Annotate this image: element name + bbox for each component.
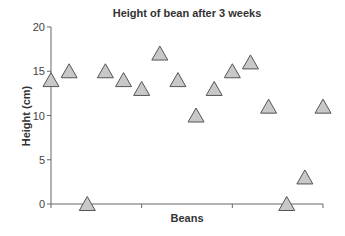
triangle-marker	[43, 73, 59, 87]
scatter-chart: Height of bean after 3 weeks 05101520 Be…	[0, 0, 345, 236]
triangle-marker	[315, 99, 331, 113]
triangle-marker	[170, 73, 186, 87]
triangle-marker	[188, 108, 204, 122]
y-axis: 05101520	[33, 21, 51, 210]
y-tick-label: 15	[33, 65, 45, 77]
chart-title: Height of bean after 3 weeks	[113, 7, 262, 19]
triangle-marker	[206, 81, 222, 95]
triangle-marker	[261, 99, 277, 113]
x-axis-label: Beans	[170, 212, 203, 224]
y-tick-label: 10	[33, 110, 45, 122]
triangle-marker	[297, 170, 313, 184]
data-points	[43, 46, 331, 210]
y-axis-label: Height (cm)	[20, 85, 32, 146]
y-tick-label: 0	[39, 198, 45, 210]
triangle-marker	[97, 64, 113, 78]
triangle-marker	[116, 73, 132, 87]
triangle-marker	[152, 46, 168, 60]
triangle-marker	[242, 55, 258, 69]
triangle-marker	[134, 81, 150, 95]
y-tick-label: 20	[33, 21, 45, 33]
triangle-marker	[61, 64, 77, 78]
y-tick-label: 5	[39, 154, 45, 166]
triangle-marker	[224, 64, 240, 78]
